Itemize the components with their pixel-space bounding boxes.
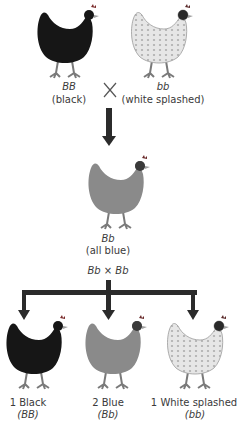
f1-phenotype: (all blue)	[78, 245, 138, 257]
parent-right-genotype: bb	[148, 81, 178, 93]
down-arrow-icon	[102, 108, 116, 146]
branch-arrow-icon	[18, 280, 199, 320]
f1-cross-label: Bb × Bb	[78, 265, 138, 277]
parent-right-phenotype: (white splashed)	[113, 94, 213, 106]
parent-left-phenotype: (black)	[44, 94, 94, 106]
f2-blue-genotype: (Bb)	[83, 409, 133, 421]
hen-white-splashed-parent-icon	[132, 4, 193, 78]
f2-white-splashed-genotype: (bb)	[170, 409, 220, 421]
f2-black-ratio: 1 Black	[3, 397, 53, 409]
f2-white-splashed-ratio: 1 White splashed	[150, 397, 237, 409]
hen-blue-f2-icon	[86, 315, 147, 389]
f2-black-genotype: (BB)	[3, 409, 53, 421]
diagram-graphics	[0, 0, 237, 431]
hen-black-parent-icon	[38, 4, 99, 78]
hen-white-splashed-f2-icon	[168, 315, 229, 389]
hen-black-f2-icon	[7, 315, 68, 389]
f1-genotype: Bb	[93, 233, 123, 245]
f2-blue-ratio: 2 Blue	[83, 397, 133, 409]
hen-blue-f1-icon	[89, 155, 150, 229]
parent-left-genotype: BB	[54, 81, 84, 93]
